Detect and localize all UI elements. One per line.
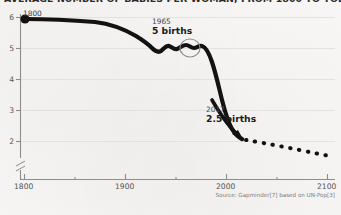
- y-axis: [16, 14, 25, 180]
- y-tick-label-5: 5: [2, 44, 14, 53]
- y-tick-label-4: 4: [2, 75, 14, 84]
- x-tick-label-2100: 2100: [317, 182, 336, 191]
- x-tick-label-1800: 1800: [14, 182, 33, 191]
- x-axis: [20, 174, 335, 180]
- x-tick-label-1900: 1900: [115, 182, 134, 191]
- data-point-label-1800: 1800: [23, 9, 42, 18]
- chart-page: AVERAGE NUMBER OF BABIES PER WOMAN, FROM…: [0, 0, 341, 215]
- y-tick-label-2: 2: [2, 137, 14, 146]
- source-note: Source: Gapminder[7] based on UN-Pop[3]: [215, 192, 335, 198]
- y-tick-label-6: 6: [2, 13, 14, 22]
- gridlines: [20, 18, 335, 142]
- series-projection-line: [246, 140, 334, 157]
- annotation-1965: 1965 5 births: [152, 17, 192, 36]
- annotation-2017: 2017 2.5 births: [206, 105, 256, 124]
- y-tick-label-3: 3: [2, 106, 14, 115]
- annotation-1965-value: 5 births: [152, 25, 192, 36]
- x-tick-label-2000: 2000: [216, 182, 235, 191]
- annotation-2017-value: 2.5 births: [206, 113, 256, 124]
